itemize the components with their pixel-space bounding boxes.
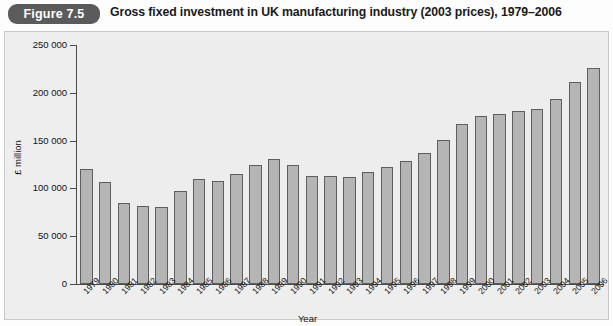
bar	[343, 177, 355, 284]
bar	[512, 111, 524, 284]
y-axis-tick-label: 200 000	[9, 87, 67, 98]
bar	[268, 159, 280, 284]
chart-panel: 050 000100 000150 000200 000250 000 1979…	[4, 31, 609, 320]
figure-page: Figure 7.5 Gross fixed investment in UK …	[0, 0, 613, 326]
bar	[531, 109, 543, 284]
bar	[249, 165, 261, 285]
y-axis-tick-label: 50 000	[9, 230, 67, 241]
figure-title: Gross fixed investment in UK manufacturi…	[110, 5, 562, 19]
bar	[287, 165, 299, 285]
bar	[174, 191, 186, 284]
bar	[400, 161, 412, 284]
bar	[587, 68, 599, 284]
bar	[80, 169, 92, 284]
figure-number-badge: Figure 7.5	[8, 4, 100, 24]
y-axis-tick-mark	[70, 188, 76, 189]
y-axis-line	[76, 45, 77, 285]
bar	[456, 124, 468, 284]
y-axis-tick-label: 0	[9, 278, 67, 289]
bar	[437, 140, 449, 284]
bar	[99, 182, 111, 284]
y-axis-title: £ million	[12, 128, 23, 188]
y-axis-tick-mark	[70, 93, 76, 94]
bar	[137, 206, 149, 284]
bar	[475, 116, 487, 284]
bar	[569, 82, 581, 284]
y-axis-tick-mark	[70, 284, 76, 285]
bar	[381, 167, 393, 284]
bar	[418, 153, 430, 284]
y-axis-tick-label: 250 000	[9, 39, 67, 50]
bar	[212, 181, 224, 284]
y-axis-tick-mark	[70, 141, 76, 142]
bar	[493, 114, 505, 284]
bar	[362, 172, 374, 284]
figure-header: Figure 7.5 Gross fixed investment in UK …	[0, 0, 613, 32]
bar	[230, 174, 242, 284]
bar	[306, 176, 318, 284]
bar	[324, 176, 336, 284]
y-axis-tick-mark	[70, 45, 76, 46]
bar	[118, 203, 130, 284]
bar	[155, 207, 167, 284]
y-axis-tick-mark	[70, 236, 76, 237]
bar	[193, 179, 205, 284]
x-axis-title: Year	[5, 313, 610, 324]
bar	[550, 99, 562, 284]
